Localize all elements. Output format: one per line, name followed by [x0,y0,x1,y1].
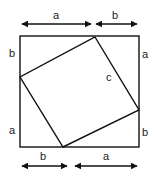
inner-square [20,37,139,147]
label-left-b: b [9,47,15,59]
label-right-b: b [142,126,148,138]
label-left-a: a [9,124,16,136]
label-bottom-b: b [40,150,46,162]
label-right-a: a [142,48,149,60]
outer-square [20,36,139,147]
label-bottom-a: a [103,150,110,162]
label-top-a: a [53,9,60,21]
label-c: c [106,71,112,83]
label-top-b: b [112,9,118,21]
pythagoras-diagram: a b b a a b c b a [0,0,155,176]
